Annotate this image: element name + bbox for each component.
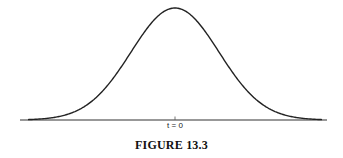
x-axis-label: t = 0 <box>160 121 190 130</box>
bell-curve-figure <box>0 0 343 158</box>
bell-curve <box>28 8 322 120</box>
figure-caption: FIGURE 13.3 <box>0 138 343 153</box>
